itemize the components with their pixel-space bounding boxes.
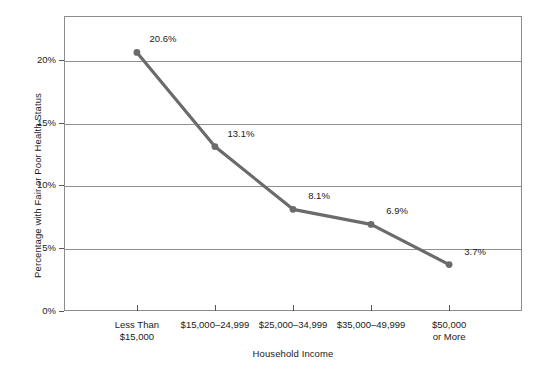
data-point-label: 8.1% (308, 190, 330, 201)
x-tick-label: $50,000 or More (432, 319, 466, 343)
data-point-label: 3.7% (464, 246, 486, 257)
gridline (65, 186, 521, 187)
x-axis-title: Household Income (64, 348, 522, 359)
x-tick-mark (215, 305, 216, 311)
y-tick-mark (59, 123, 64, 124)
x-tick-mark (449, 305, 450, 311)
y-tick-label: 0% (42, 305, 56, 316)
gridline (65, 61, 521, 62)
data-point-label: 13.1% (227, 128, 254, 139)
x-tick-label: Less Than $15,000 (115, 319, 159, 343)
x-tick-mark (137, 305, 138, 311)
y-tick-mark (59, 311, 64, 312)
data-point-label: 20.6% (149, 33, 176, 44)
x-tick-mark (293, 305, 294, 311)
y-axis-title-wrap: Percentage with Fair or Poor Health Stat… (14, 0, 30, 330)
plot-area (64, 16, 522, 311)
gridline (65, 124, 521, 125)
x-tick-label: $25,000–34,999 (259, 319, 328, 331)
y-tick-mark (59, 60, 64, 61)
y-tick-label: 15% (37, 117, 56, 128)
y-tick-label: 10% (37, 179, 56, 190)
y-tick-mark (59, 185, 64, 186)
x-tick-label: $35,000–49,999 (337, 319, 406, 331)
x-tick-mark (371, 305, 372, 311)
chart-figure: Percentage with Fair or Poor Health Stat… (0, 0, 535, 371)
y-tick-label: 5% (42, 242, 56, 253)
y-tick-label: 20% (37, 54, 56, 65)
y-tick-mark (59, 248, 64, 249)
x-tick-label: $15,000–24,999 (181, 319, 250, 331)
gridline (65, 249, 521, 250)
data-point-label: 6.9% (386, 205, 408, 216)
